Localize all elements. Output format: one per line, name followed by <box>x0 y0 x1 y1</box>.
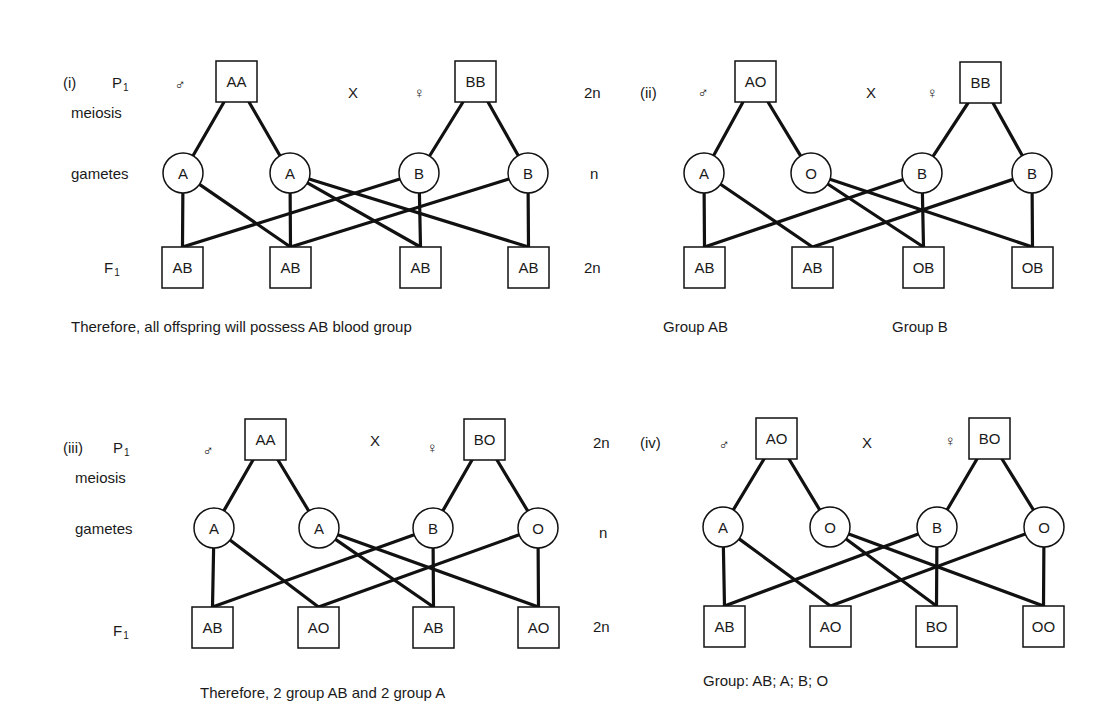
fertilization-line <box>723 547 724 606</box>
female-symbol-icon: ♀ <box>926 84 937 101</box>
gamete: B <box>508 153 548 193</box>
meiosis-line <box>768 102 801 156</box>
parental-generation-label-letter: P <box>113 439 123 456</box>
panel-caption: Group B <box>892 318 948 335</box>
offspring-genotype-label: AB <box>423 619 443 636</box>
female-parent-genotype: BB <box>455 61 496 102</box>
meiosis-line <box>278 460 309 511</box>
offspring-genotype-label: AB <box>410 259 430 276</box>
gamete-ploidy-label: n <box>590 165 598 182</box>
meiosis-line <box>193 102 224 156</box>
panel-caption: Group AB <box>663 318 728 335</box>
gamete-allele-label: O <box>1038 519 1050 536</box>
offspring: AB <box>413 607 454 648</box>
gamete: B <box>399 153 439 193</box>
parent-ploidy-label: 2n <box>584 84 601 101</box>
offspring-genotype-label: AB <box>280 259 300 276</box>
cross-panel-ii: AOBBAOBBABABOBOB(ii)♂X♀Group ABGroup B <box>640 61 1053 335</box>
fertilization-line <box>922 193 923 247</box>
genotype-label: BO <box>474 431 496 448</box>
filial-generation-label-subscript: 1 <box>114 267 120 278</box>
gamete-allele-label: O <box>532 520 544 537</box>
gamete: A <box>194 508 234 548</box>
gamete: B <box>1012 153 1052 193</box>
meiosis-line <box>443 460 472 511</box>
parental-generation-label: P1 <box>113 439 130 458</box>
male-symbol-icon: ♂ <box>202 442 213 459</box>
male-symbol-icon: ♂ <box>697 84 708 101</box>
gametes-label: gametes <box>71 165 129 182</box>
offspring-genotype-label: AB <box>518 259 538 276</box>
panel-number: (ii) <box>640 84 657 101</box>
gamete-allele-label: B <box>932 519 942 536</box>
offspring-genotype-label: AB <box>694 259 714 276</box>
offspring: AB <box>400 247 441 288</box>
parent-ploidy-label: 2n <box>593 434 610 451</box>
male-parent-genotype: AA <box>216 61 257 102</box>
meiosis-label: meiosis <box>75 469 126 486</box>
cross-panel-iv: AOBOAOBOABAOBOOO(iv)♂X♀Group: AB; A; B; … <box>640 418 1064 689</box>
gamete-allele-label: O <box>824 519 836 536</box>
genotype-label: BB <box>465 73 485 90</box>
female-parent-genotype: BO <box>464 419 505 460</box>
male-parent-genotype: AO <box>756 418 797 459</box>
offspring: OB <box>1012 247 1053 288</box>
gametes-label: gametes <box>75 520 133 537</box>
offspring-genotype-label: OO <box>1032 618 1055 635</box>
panel-number: (iv) <box>640 434 661 451</box>
cross-symbol: X <box>866 84 876 101</box>
offspring: OB <box>903 247 944 288</box>
gamete: A <box>684 153 724 193</box>
cross-symbol: X <box>370 432 380 449</box>
genotype-label: AO <box>766 430 788 447</box>
connection-lines <box>704 102 1032 247</box>
offspring: AB <box>704 606 745 647</box>
gamete-allele-label: B <box>917 165 927 182</box>
gamete-allele-label: A <box>285 165 295 182</box>
filial-generation-label-subscript: 1 <box>123 630 129 641</box>
parental-generation-label: P1 <box>112 74 129 93</box>
offspring-genotype-label: AO <box>308 619 330 636</box>
gamete-allele-label: A <box>699 165 709 182</box>
meiosis-line <box>789 459 820 510</box>
fertilization-line <box>213 548 214 607</box>
meiosis-line <box>947 459 977 510</box>
connection-lines <box>213 460 539 607</box>
panel-number: (iii) <box>63 439 83 456</box>
gamete-allele-label: A <box>718 519 728 536</box>
offspring-genotype-label: AB <box>802 259 822 276</box>
male-symbol-icon: ♂ <box>174 76 185 93</box>
parental-generation-label-subscript: 1 <box>123 82 129 93</box>
gamete: O <box>810 507 850 547</box>
offspring-genotype-label: OB <box>913 259 935 276</box>
gamete-allele-label: B <box>414 165 424 182</box>
meiosis-line <box>497 460 528 511</box>
offspring: AO <box>810 606 851 647</box>
genotype-label: BB <box>970 74 990 91</box>
offspring: AB <box>508 247 549 288</box>
offspring: AB <box>270 247 311 288</box>
offspring-genotype-label: AB <box>714 618 734 635</box>
female-symbol-icon: ♀ <box>944 432 955 449</box>
panel-caption: Therefore, 2 group AB and 2 group A <box>200 684 445 701</box>
gamete: O <box>518 508 558 548</box>
offspring: AO <box>298 607 339 648</box>
cross-panel-i: AABBAABBABABABAB(i)♂X♀P1meiosisgametesF1… <box>63 61 601 335</box>
gamete-allele-label: A <box>178 165 188 182</box>
offspring-genotype-label: AO <box>820 618 842 635</box>
meiosis-line <box>224 460 253 511</box>
panel-caption: Therefore, all offspring will possess AB… <box>71 318 412 335</box>
filial-generation-label: F1 <box>104 259 120 278</box>
offspring-genotype-label: BO <box>926 618 948 635</box>
meiosis-line <box>249 102 280 156</box>
offspring-genotype-label: AB <box>172 259 192 276</box>
gamete-allele-label: B <box>1027 165 1037 182</box>
genotype-label: AA <box>255 431 275 448</box>
gamete: A <box>299 508 339 548</box>
gamete-allele-label: A <box>209 520 219 537</box>
male-parent-genotype: AO <box>735 61 776 102</box>
offspring: BO <box>916 606 957 647</box>
gamete: O <box>1024 507 1064 547</box>
offspring-genotype-label: OB <box>1022 259 1044 276</box>
offspring: OO <box>1023 606 1064 647</box>
